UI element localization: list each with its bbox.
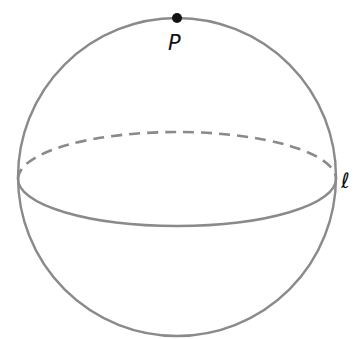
sphere-diagram: P ℓ (0, 0, 356, 339)
point-p-dot (172, 13, 182, 23)
equator-back-dashed (18, 132, 336, 179)
line-l-label: ℓ (340, 169, 350, 193)
point-p-label: P (168, 31, 181, 55)
sphere-outline (18, 18, 336, 336)
equator-front (18, 179, 336, 226)
